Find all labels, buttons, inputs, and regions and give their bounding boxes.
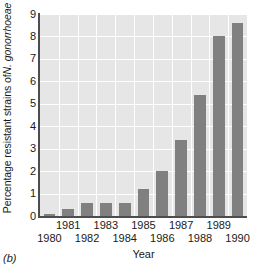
x-axis-title: Year — [40, 248, 247, 260]
panel-label: (b) — [3, 252, 16, 264]
bar-1984 — [119, 203, 131, 216]
gridline-vertical — [115, 14, 116, 216]
y-axis-title: Percentage resistant strains of N. gonor… — [0, 0, 14, 216]
bar-1990 — [232, 23, 244, 216]
x-tick-1986: 1986 — [145, 232, 179, 244]
y-tick-6: 6 — [16, 76, 36, 87]
figure-panel-b: Percentage resistant strains of N. gonor… — [0, 0, 258, 272]
bar-1985 — [138, 189, 150, 216]
bar-1986 — [156, 171, 168, 216]
x-axis-line — [38, 216, 247, 218]
bar-1987 — [175, 140, 187, 216]
gridline-vertical — [172, 14, 173, 216]
y-tick-0: 0 — [16, 211, 36, 222]
gridline-vertical — [78, 14, 79, 216]
gridline-vertical — [96, 14, 97, 216]
x-tick-1983: 1983 — [89, 219, 123, 231]
gridline-vertical — [59, 14, 60, 216]
x-tick-1988: 1988 — [183, 232, 217, 244]
x-axis-tick-labels: 1980198119821983198419851986198719881989… — [40, 219, 247, 249]
bar-1983 — [100, 203, 112, 216]
x-tick-1980: 1980 — [32, 232, 66, 244]
x-tick-1990: 1990 — [221, 232, 255, 244]
y-axis-tick-labels: 0123456789 — [16, 14, 36, 216]
y-tick-8: 8 — [16, 31, 36, 42]
y-tick-7: 7 — [16, 53, 36, 64]
y-tick-5: 5 — [16, 98, 36, 109]
x-tick-1989: 1989 — [202, 219, 236, 231]
plot-area — [40, 14, 247, 216]
y-axis-line — [38, 13, 40, 217]
x-tick-1984: 1984 — [108, 232, 142, 244]
x-tick-1982: 1982 — [70, 232, 104, 244]
x-tick-1981: 1981 — [51, 219, 85, 231]
y-tick-2: 2 — [16, 166, 36, 177]
bar-1989 — [213, 36, 225, 216]
y-tick-1: 1 — [16, 188, 36, 199]
y-axis-title-species: N. gonorrhoeae — [1, 3, 13, 75]
gridline-horizontal — [40, 14, 247, 15]
bar-1982 — [81, 203, 93, 216]
bar-1981 — [62, 209, 74, 216]
y-tick-4: 4 — [16, 121, 36, 132]
x-tick-1987: 1987 — [164, 219, 198, 231]
gridline-vertical — [209, 14, 210, 216]
gridline-vertical — [153, 14, 154, 216]
gridline-vertical — [228, 14, 229, 216]
x-tick-1985: 1985 — [127, 219, 161, 231]
y-axis-title-prefix: Percentage resistant strains of — [1, 74, 13, 213]
y-tick-9: 9 — [16, 9, 36, 20]
y-tick-3: 3 — [16, 143, 36, 154]
gridline-vertical — [191, 14, 192, 216]
bar-1988 — [194, 95, 206, 216]
gridline-vertical — [134, 14, 135, 216]
